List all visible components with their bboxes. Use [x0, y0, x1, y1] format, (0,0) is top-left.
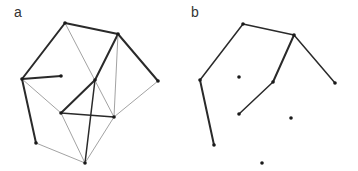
edge-B-C	[294, 35, 335, 83]
edge-G-H	[61, 113, 114, 117]
edge-B-F	[95, 34, 118, 80]
node-F	[271, 80, 275, 84]
node-J	[260, 161, 264, 165]
edge-B-F	[273, 35, 294, 82]
edge-A-D	[22, 23, 65, 79]
node-I	[212, 143, 216, 147]
edge-F-G	[61, 80, 95, 113]
edge-A-D	[200, 24, 243, 80]
node-F	[93, 78, 97, 82]
node-G	[237, 112, 241, 116]
node-D	[198, 78, 202, 82]
panel-a	[20, 21, 160, 165]
node-J	[83, 161, 87, 165]
node-C	[156, 79, 160, 83]
node-H	[289, 116, 293, 120]
node-E	[59, 74, 63, 78]
edge-D-I	[22, 79, 36, 143]
node-D	[20, 77, 24, 81]
edge-G-J	[61, 113, 85, 163]
edge-A-B	[243, 24, 294, 35]
edge-D-E	[22, 76, 61, 79]
panel-b	[198, 22, 337, 165]
node-H	[112, 115, 116, 119]
edge-A-B	[65, 23, 118, 34]
edge-B-H	[114, 34, 118, 117]
node-G	[59, 111, 63, 115]
graph-canvas	[0, 0, 358, 171]
node-I	[34, 141, 38, 145]
node-C	[333, 81, 337, 85]
edge-F-G	[239, 82, 273, 114]
node-A	[63, 21, 67, 25]
edge-I-J	[36, 143, 85, 163]
edge-F-J	[85, 80, 95, 163]
edge-C-H	[114, 81, 158, 117]
node-B	[116, 32, 120, 36]
node-A	[241, 22, 245, 26]
edge-B-C	[118, 34, 158, 81]
edge-D-I	[200, 80, 214, 145]
node-B	[292, 33, 296, 37]
node-E	[237, 75, 241, 79]
